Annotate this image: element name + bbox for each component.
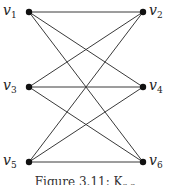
vertex-label-v1: v1 (3, 3, 17, 20)
vertex-label-v6: v6 (149, 153, 163, 170)
figure-caption: Figure 3.11: K3,3 (0, 175, 170, 185)
caption-subscript: 3,3 (123, 182, 136, 185)
vertex-label-v4: v4 (149, 78, 163, 95)
vertex-v2 (140, 9, 146, 15)
vertex-v1 (26, 9, 32, 15)
vertex-label-v3: v3 (3, 78, 17, 95)
edges (29, 12, 143, 162)
vertex-v4 (140, 84, 146, 90)
vertex-label-v2: v2 (149, 3, 163, 20)
k33-graph (0, 0, 170, 185)
vertex-v6 (140, 159, 146, 165)
caption-text: Figure 3.11: K (35, 175, 123, 185)
vertex-v5 (26, 159, 32, 165)
vertex-v3 (26, 84, 32, 90)
vertex-label-v5: v5 (3, 153, 17, 170)
